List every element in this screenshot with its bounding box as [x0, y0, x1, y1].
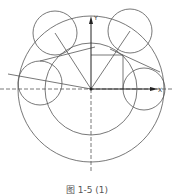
- radius-line-top-left: [55, 33, 91, 89]
- y-arrowhead-icon: [89, 16, 93, 24]
- geometry-diagram: Y X: [0, 0, 174, 196]
- y-axis-label: Y: [93, 14, 98, 21]
- x-axis-label: X: [158, 86, 162, 93]
- small-circle-left: [18, 61, 62, 105]
- radius-line-left: [8, 74, 91, 89]
- x-arrowhead-icon: [150, 87, 158, 91]
- radius-line-top-right: [91, 31, 130, 89]
- origin-dot: [90, 88, 93, 91]
- figure-caption: 图 1-5 (1): [0, 183, 174, 196]
